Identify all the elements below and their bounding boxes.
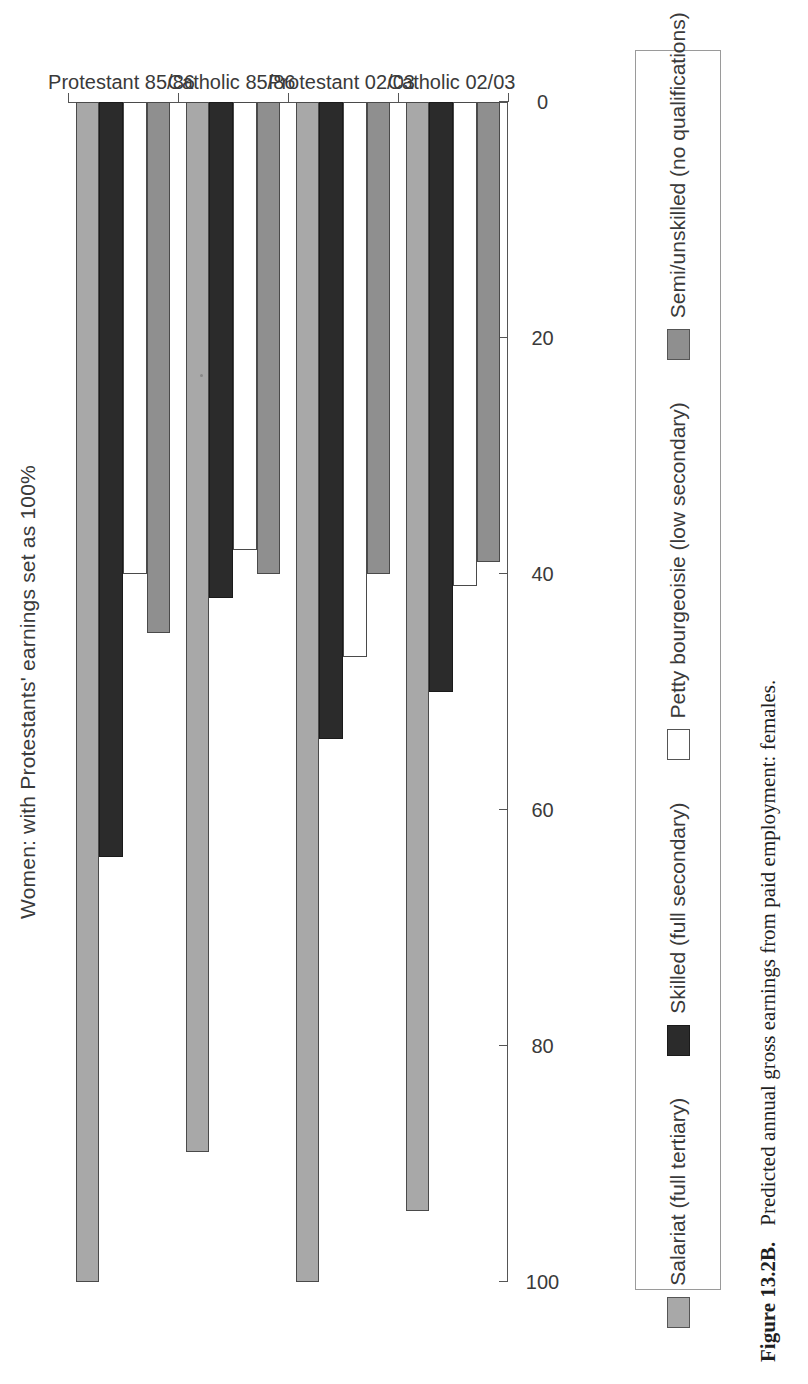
category-axis-tick xyxy=(178,93,179,102)
bar xyxy=(257,102,281,574)
figure-caption: Figure 13.2B. Predicted annual gross ear… xyxy=(756,22,796,1362)
legend-swatch-icon xyxy=(667,1025,690,1056)
value-axis-line xyxy=(507,102,508,1282)
legend-item-label: Skilled (full secondary) xyxy=(666,802,690,1013)
legend-item: Skilled (full secondary) xyxy=(666,802,690,1055)
category-axis-tick xyxy=(288,93,289,102)
scan-speck xyxy=(200,374,203,377)
value-axis-tick-label: 20 xyxy=(508,327,578,350)
category-axis-tick xyxy=(398,93,399,102)
figure-page: Women: with Protestants' earnings set as… xyxy=(0,0,808,1384)
bar xyxy=(123,102,147,574)
bar xyxy=(209,102,233,598)
value-axis-tick-label: 60 xyxy=(508,799,578,822)
category-axis-end-tick xyxy=(508,93,509,102)
bar xyxy=(453,102,477,586)
bar xyxy=(99,102,123,857)
bar xyxy=(319,102,343,739)
plot-area: 020406080100Protestant 85/86Catholic 85/… xyxy=(68,102,508,1282)
bar xyxy=(186,102,210,1152)
legend-item-label: Petty bourgeoisie (low secondary) xyxy=(666,402,690,718)
chart-region: Women: with Protestants' earnings set as… xyxy=(0,0,620,1384)
legend-swatch-icon xyxy=(667,1297,690,1328)
bar xyxy=(233,102,257,550)
legend-box: Salariat (full tertiary)Skilled (full se… xyxy=(635,50,721,1290)
bar xyxy=(406,102,430,1211)
bar xyxy=(477,102,501,562)
chart-title: Women: with Protestants' earnings set as… xyxy=(16,42,40,1342)
bar xyxy=(296,102,320,1282)
bar xyxy=(76,102,100,1282)
category-axis-end-tick xyxy=(68,93,69,102)
legend-item: Semi/unskilled (no qualifications) xyxy=(666,12,690,360)
bar xyxy=(343,102,367,657)
legend-item-label: Semi/unskilled (no qualifications) xyxy=(666,12,690,318)
value-axis-tick-label: 40 xyxy=(508,563,578,586)
legend-item-label: Salariat (full tertiary) xyxy=(666,1098,690,1286)
legend-item: Salariat (full tertiary) xyxy=(666,1098,690,1328)
caption-region: Figure 13.2B. Predicted annual gross ear… xyxy=(744,0,808,1384)
value-axis-tick-label: 100 xyxy=(508,1271,578,1294)
legend-region: Salariat (full tertiary)Skilled (full se… xyxy=(618,30,738,1310)
legend-item: Petty bourgeoisie (low secondary) xyxy=(666,402,690,760)
figure-caption-text: Predicted annual gross earnings from pai… xyxy=(756,680,781,1226)
figure-caption-label: Figure 13.2B. xyxy=(756,1242,781,1362)
legend-swatch-icon xyxy=(667,729,690,760)
value-axis-tick-label: 0 xyxy=(508,91,578,114)
category-axis-label: Catholic 02/03 xyxy=(322,71,582,94)
value-axis-tick-label: 80 xyxy=(508,1035,578,1058)
legend-swatch-icon xyxy=(667,329,690,360)
chart-canvas: Women: with Protestants' earnings set as… xyxy=(10,42,610,1342)
bar xyxy=(367,102,391,574)
bar xyxy=(429,102,453,692)
bar xyxy=(147,102,171,633)
